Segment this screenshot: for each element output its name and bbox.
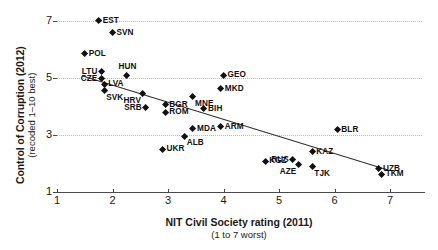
diamond-marker-icon	[217, 85, 224, 92]
x-tick-label-4: 4	[211, 194, 237, 206]
data-point-label: TJK	[314, 170, 330, 178]
x-tick-mark-4	[224, 189, 225, 193]
diamond-marker-icon	[309, 148, 316, 155]
data-point-label: SVN	[117, 29, 134, 37]
y-tick-mark-7	[53, 21, 57, 22]
x-tick-label-2: 2	[100, 194, 126, 206]
diamond-marker-icon	[334, 126, 341, 133]
x-tick-label-6: 6	[322, 194, 348, 206]
data-point-label: GEO	[228, 71, 247, 79]
x-tick-mark-7	[390, 189, 391, 193]
data-point-label: KGZ	[269, 157, 287, 165]
data-point-label: LVA	[108, 80, 123, 88]
data-point-label: UKR	[166, 145, 184, 153]
diamond-marker-icon	[95, 17, 102, 24]
x-tick-mark-6	[335, 189, 336, 193]
data-point-label: AZE	[280, 168, 297, 176]
x-tick-mark-1	[57, 189, 58, 193]
data-point-label: TKM	[386, 170, 404, 178]
gridline-y-3	[57, 135, 422, 136]
y-tick-label-7: 7	[6, 14, 52, 26]
y-tick-label-3: 3	[6, 128, 52, 140]
data-point-label: MDA	[197, 125, 216, 133]
data-point-label: POL	[89, 50, 106, 58]
diamond-marker-icon	[162, 109, 169, 116]
x-tick-label-1: 1	[44, 194, 70, 206]
data-point-label: ARM	[225, 123, 244, 131]
y-tick-label-5: 5	[6, 71, 52, 83]
diamond-marker-icon	[261, 158, 268, 165]
plot-area: 1357 1234567 ESTSVNPOLLTUHUNCZELVASVKHRV…	[0, 0, 438, 250]
data-point-label: SRB	[124, 104, 142, 112]
x-tick-label-5: 5	[266, 194, 292, 206]
x-tick-mark-3	[168, 189, 169, 193]
y-tick-mark-5	[53, 78, 57, 79]
data-point-label: BIH	[208, 105, 222, 113]
data-point-label: SVK	[106, 94, 123, 102]
x-tick-mark-2	[113, 189, 114, 193]
scatter-chart-figure: Control of Corruption (2012) (recoded 1–…	[0, 0, 438, 250]
data-point-label: ALB	[187, 139, 204, 147]
diamond-marker-icon	[81, 50, 88, 57]
diamond-marker-icon	[109, 29, 116, 36]
diamond-marker-icon	[142, 104, 149, 111]
data-point-label: BLR	[341, 126, 358, 134]
x-tick-mark-5	[279, 189, 280, 193]
diamond-marker-icon	[189, 125, 196, 132]
diamond-marker-icon	[217, 123, 224, 130]
y-tick-mark-3	[53, 135, 57, 136]
data-point-label: KAZ	[316, 148, 333, 156]
diamond-marker-icon	[159, 146, 166, 153]
data-point-label: HUN	[118, 63, 136, 71]
x-tick-label-3: 3	[155, 194, 181, 206]
data-point-label: EST	[103, 17, 119, 25]
x-tick-label-7: 7	[377, 194, 403, 206]
data-point-label: ROM	[169, 108, 188, 116]
data-point-label: MKD	[225, 85, 244, 93]
data-point-label: CZE	[81, 75, 98, 83]
